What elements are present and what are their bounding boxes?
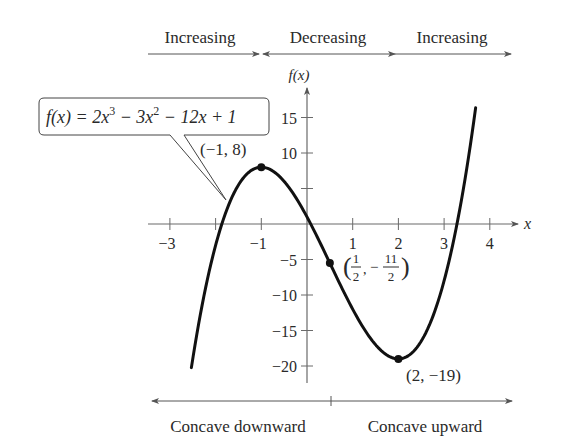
y-tick-label: −15: [272, 323, 297, 340]
eq-part-1: f(x) = 2x: [46, 107, 109, 128]
negative-sign: −: [370, 259, 378, 275]
monotonicity-bar: Increasing Decreasing Increasing: [148, 28, 511, 54]
function-equation: f(x) = 2x3 − 3x2 − 12x + 1: [46, 104, 237, 128]
y-tick-label: 15: [281, 110, 297, 127]
interval-label-increasing-left: Increasing: [165, 28, 236, 47]
max-point-label: (−1, 8): [200, 140, 246, 159]
concave-upward-label: Concave upward: [368, 417, 483, 436]
x-tick-label: −1: [250, 235, 267, 252]
concavity-bar: Concave downward Concave upward: [152, 396, 512, 436]
function-graph: Increasing Decreasing Increasing x f(x) …: [0, 0, 566, 448]
eq-part-3: − 12x + 1: [159, 107, 236, 127]
y-tick-label: −5: [280, 252, 297, 269]
x-tick-label: −3: [158, 235, 175, 252]
eq-part-2: − 3x: [115, 107, 153, 127]
min-point-label: (2, −19): [406, 366, 461, 385]
x-tick-label: 3: [440, 235, 448, 252]
comma: ,: [363, 262, 367, 277]
y-tick-label: −20: [272, 358, 297, 375]
concave-downward-label: Concave downward: [170, 417, 306, 436]
y-tick-label: −10: [272, 287, 297, 304]
x-tick-label: 1: [349, 235, 357, 252]
inflection-x-denominator: 2: [353, 269, 360, 284]
inflection-x-numerator: 1: [353, 251, 360, 266]
inflection-y-numerator: 11: [385, 251, 398, 266]
relative-maximum-point: [257, 163, 265, 171]
x-ticks: −3−11234: [158, 218, 493, 252]
interval-label-decreasing: Decreasing: [290, 28, 367, 47]
inflection-y-denominator: 2: [388, 269, 395, 284]
x-tick-label: 2: [394, 235, 402, 252]
interval-label-increasing-right: Increasing: [417, 28, 488, 47]
inflection-point-label: ( 1 2 , − 11 2 ): [343, 251, 410, 284]
relative-minimum-point: [394, 355, 402, 363]
inflection-point: [326, 259, 334, 267]
y-tick-label: 10: [281, 145, 297, 162]
x-tick-label: 4: [486, 235, 494, 252]
x-axis-label: x: [523, 215, 531, 232]
paren-open: (: [343, 252, 352, 281]
y-axis-label: f(x): [289, 67, 310, 84]
paren-close: ): [401, 252, 410, 281]
